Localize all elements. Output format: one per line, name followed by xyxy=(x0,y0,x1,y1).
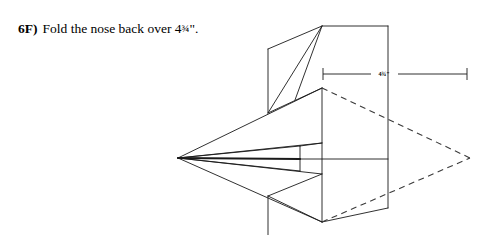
dashed-upper-projection xyxy=(322,88,470,158)
lower-wing-fold-crease xyxy=(268,196,322,222)
lower-wing-leading-edge xyxy=(268,174,322,196)
nose-keel-line xyxy=(178,158,300,159)
dimension-label: 4¾" xyxy=(378,70,389,77)
nose-lower-crease xyxy=(178,158,300,171)
dimension-line-group xyxy=(323,68,467,80)
fold-projection-dashed xyxy=(322,88,470,222)
dashed-lower-projection xyxy=(322,158,470,222)
airplane-fold-diagram: 4¾" xyxy=(0,0,493,235)
nose-upper-crease xyxy=(178,146,300,158)
upper-wing-leading-edge xyxy=(268,26,322,49)
lower-panel-bottom-edge xyxy=(322,208,388,222)
airplane-outline-solid xyxy=(178,26,388,235)
page-canvas: 6F)Fold the nose back over 4¾". xyxy=(0,0,493,235)
